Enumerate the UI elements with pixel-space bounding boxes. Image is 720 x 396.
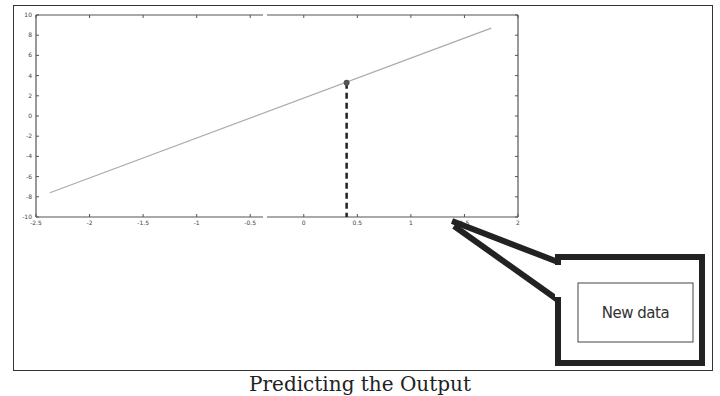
svg-text:2: 2	[28, 92, 32, 99]
callout-pointer	[452, 221, 560, 300]
svg-text:0: 0	[28, 112, 32, 119]
svg-text:0: 0	[302, 219, 306, 226]
svg-text:4: 4	[28, 72, 32, 79]
svg-text:-2: -2	[26, 132, 32, 139]
svg-text:-8: -8	[26, 193, 32, 200]
data-series	[50, 28, 491, 217]
svg-text:-2.5: -2.5	[30, 219, 42, 226]
figure-caption: Predicting the Output	[0, 374, 720, 394]
svg-text:8: 8	[28, 31, 32, 38]
svg-text:10: 10	[24, 11, 32, 18]
svg-text:-1: -1	[194, 219, 200, 226]
svg-text:-6: -6	[26, 173, 32, 180]
callout-label: New data	[578, 283, 693, 342]
svg-text:-1.5: -1.5	[137, 219, 149, 226]
svg-text:-0.5: -0.5	[244, 219, 256, 226]
svg-text:-10: -10	[22, 213, 32, 220]
svg-text:-4: -4	[26, 152, 32, 159]
svg-text:1: 1	[409, 219, 413, 226]
axis-ticks: -2.5-2-1.5-1-0.500.511.521086420-2-4-6-8…	[22, 11, 520, 226]
svg-text:6: 6	[28, 51, 32, 58]
svg-text:-2: -2	[87, 219, 93, 226]
svg-text:2: 2	[516, 219, 520, 226]
svg-text:0.5: 0.5	[353, 219, 363, 226]
